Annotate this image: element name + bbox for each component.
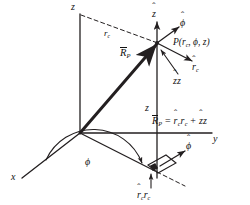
- equation-position-vector: RP = ˆrcrc + ˆzz: [152, 116, 207, 126]
- r-component-magnitude-sub: c: [148, 194, 151, 201]
- z-component-hat-glyph: ˆz: [173, 76, 177, 86]
- equation-term2-mag: z: [203, 115, 207, 126]
- equation-plus: +: [188, 115, 199, 126]
- radial-extension-dashed: [157, 172, 185, 186]
- hat-mark-icon: ˆ: [173, 70, 176, 80]
- label-rc-dashed: rc: [104, 29, 110, 38]
- label-phi-hat-at-P: ˆϕ: [180, 18, 185, 28]
- rc-dashed-line: [81, 15, 155, 42]
- point-P-marker: [155, 41, 159, 45]
- axis-label-z: z: [71, 2, 75, 12]
- point-P-suffix: ): [206, 37, 209, 47]
- equation-term2-unit-glyph: ˆz: [199, 116, 203, 126]
- hat-mark-icon: ˆ: [187, 135, 190, 145]
- phi-hat-foot-glyph: ˆϕ: [186, 141, 191, 151]
- x-axis-line: [22, 133, 80, 178]
- axis-label-x: x: [11, 172, 15, 182]
- overbar-mark-icon: [152, 115, 159, 116]
- phi-hat-vector-at-foot: [160, 151, 185, 166]
- hat-mark-icon: ˆ: [199, 110, 202, 120]
- position-vector-RP: [80, 45, 156, 133]
- label-rc-dashed-sub: c: [108, 33, 110, 39]
- equation-lhs-sub: P: [158, 120, 162, 127]
- equation-equals: =: [162, 115, 173, 126]
- label-r-component: ˆrcrc: [137, 190, 150, 200]
- label-z-hat-axis: ˆz: [152, 9, 156, 19]
- label-phi-angle: ϕ: [85, 157, 90, 167]
- equation-term1-unit-sub: c: [178, 120, 181, 127]
- point-P-prefix: P(: [173, 37, 182, 47]
- point-P-r-sub: c: [186, 42, 189, 48]
- label-z-component: ˆzz: [173, 76, 181, 86]
- axis-label-y: y: [213, 134, 217, 144]
- cylindrical-coordinates-figure: z y x rc ˆz ˆϕ P(rc, ϕ, z) ˆrc RP ˆzz z …: [0, 0, 250, 205]
- z-component-magnitude: z: [177, 75, 181, 86]
- label-height-z: z: [145, 103, 149, 113]
- RP-sub: P: [126, 52, 130, 59]
- r-component-magnitude: r: [144, 189, 148, 200]
- equation-term1-mag-sub: c: [185, 120, 188, 127]
- figure-line-art: [0, 0, 250, 205]
- label-phi-hat-at-foot: ˆϕ: [186, 141, 191, 151]
- label-rc-dashed-base: r: [104, 28, 108, 38]
- hat-mark-icon: ˆ: [137, 184, 140, 194]
- phi-hat-glyph: ˆϕ: [180, 18, 185, 28]
- r-component-unit-sub: c: [141, 194, 144, 201]
- xy-projection-line: [80, 133, 155, 171]
- label-point-P: P(rc, ϕ, z): [173, 38, 210, 48]
- label-position-vector-RP: RP: [120, 48, 130, 59]
- label-r-hat-at-P: ˆrc: [192, 62, 199, 72]
- hat-mark-icon: ˆ: [174, 110, 177, 120]
- hat-mark-icon: ˆ: [181, 12, 184, 22]
- z-hat-glyph: ˆz: [152, 9, 156, 19]
- hat-mark-icon: ˆ: [152, 3, 155, 13]
- hat-mark-icon: ˆ: [192, 56, 195, 66]
- overbar-mark-icon: [120, 47, 127, 48]
- r-hat-sub: c: [196, 66, 199, 73]
- phi-angle-arc: [46, 129, 142, 163]
